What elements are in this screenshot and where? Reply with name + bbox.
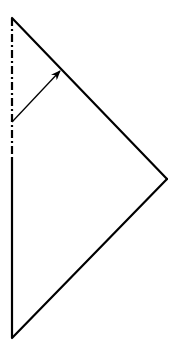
lower-diagonal-edge [12, 179, 167, 338]
kite-diagram [0, 0, 183, 345]
normal-arrow [12, 71, 60, 122]
upper-diagonal-edge [12, 18, 167, 179]
diagram-canvas [0, 0, 183, 345]
